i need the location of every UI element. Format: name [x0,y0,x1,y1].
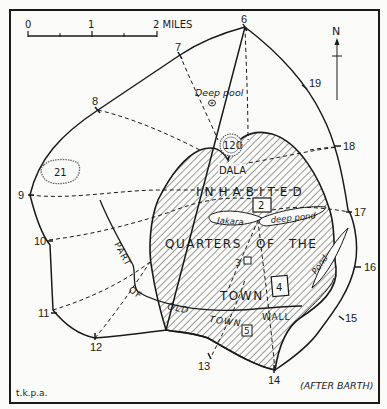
svg-text:17: 17 [354,206,366,218]
the-label: THE [288,237,317,251]
north-label: N [332,25,340,38]
north-arrow-icon: N [332,25,342,100]
credit-tkpa: t.k.p.a. [16,388,47,398]
scale-label-0: 0 [25,19,31,30]
part-label: PART [112,240,133,268]
credit-after-barth: (AFTER BARTH) [300,380,373,391]
svg-text:14: 14 [268,374,280,386]
site-4: 4 [271,275,289,296]
svg-text:13: 13 [198,360,210,372]
dala-hill: 120 [220,134,242,156]
site-5: 5 [242,325,252,336]
gate-15: 15 [339,312,357,324]
gate-19: 19 [302,77,321,89]
gate-18: 18 [335,140,355,152]
quarters-label: QUARTERS [165,237,242,251]
svg-text:4: 4 [276,282,282,293]
map-canvas: 0 1 2 MILES N 120 [0,0,387,409]
svg-text:19: 19 [309,77,321,89]
svg-text:11: 11 [38,307,49,319]
scale-label-1: 1 [88,19,94,30]
deep-pool-label: Deep pool [195,87,244,98]
svg-text:10: 10 [34,235,46,247]
town-label: TOWN [219,289,264,303]
svg-text:8: 8 [92,95,98,107]
hill-21-label: 21 [54,167,67,178]
svg-text:9: 9 [18,189,24,201]
deep-pool: Deep pool [195,87,244,106]
svg-text:3: 3 [235,258,241,268]
part-of-label: OF [127,284,144,300]
svg-text:12: 12 [90,341,102,353]
dala-label: DALA [219,165,246,176]
scale-label-2-miles: 2 MILES [153,19,192,30]
scale-bar: 0 1 2 MILES [25,19,192,37]
gate-17: 17 [346,206,366,218]
site-2: 2 [253,198,271,212]
hill-120-label: 120 [223,140,242,151]
gate-16: 16 [355,261,376,273]
svg-text:16: 16 [364,261,376,273]
hill-21: 21 [41,159,80,183]
svg-text:5: 5 [244,326,250,336]
wall-label: WALL [262,312,291,322]
svg-text:2: 2 [258,200,264,211]
svg-text:7: 7 [175,41,181,53]
gate-13: 13 [198,353,211,372]
of-label: OF [256,237,275,251]
svg-text:18: 18 [343,140,355,152]
svg-text:6: 6 [241,13,247,25]
map-figure: 0 1 2 MILES N 120 [0,0,387,409]
gate-11: 11 [38,307,57,319]
svg-text:15: 15 [345,312,357,324]
inhabited-label: INHABITED [196,185,307,199]
